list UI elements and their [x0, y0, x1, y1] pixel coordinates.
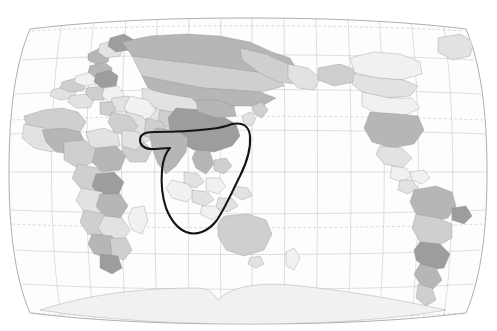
header-caption — [0, 0, 497, 11]
world-map — [0, 12, 497, 331]
map-canvas — [0, 12, 497, 331]
